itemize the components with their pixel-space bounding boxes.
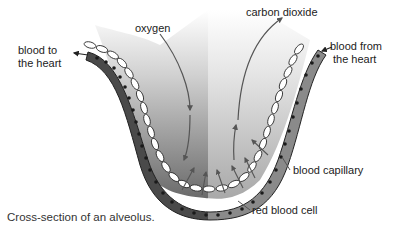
blood-capillary-label: blood capillary: [293, 164, 363, 177]
blood-to-heart-label: blood to the heart: [18, 44, 61, 70]
blood-from-heart-line2: the heart: [330, 53, 382, 66]
alveolus-illustration: [0, 0, 402, 234]
alveolus-diagram: oxygen carbon dioxide blood to the heart…: [0, 0, 402, 234]
oxygen-label: oxygen: [135, 22, 170, 35]
blood-to-heart-line1: blood to: [18, 44, 61, 57]
blood-to-heart-arrow: [74, 53, 88, 55]
blood-to-heart-line2: the heart: [18, 57, 61, 70]
blood-from-heart-label: blood from the heart: [330, 40, 382, 66]
red-blood-cell-label: red blood cell: [252, 204, 317, 217]
figure-caption: Cross-section of an alveolus.: [7, 211, 155, 223]
blood-from-heart-line1: blood from: [330, 40, 382, 53]
carbon-dioxide-label: carbon dioxide: [246, 6, 318, 19]
